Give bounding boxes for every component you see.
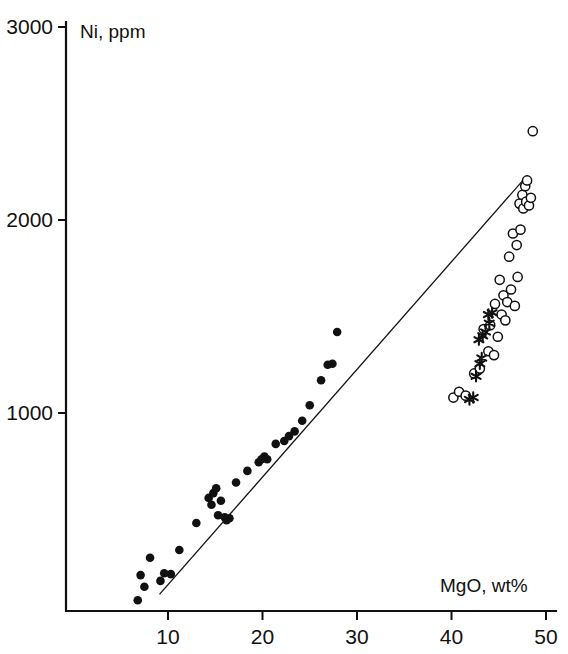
data-point-filled-circle [305,401,314,410]
data-point-open-circle [512,240,521,249]
data-point-filled-circle [133,596,142,605]
data-point-open-circle [513,272,522,281]
axes-group [66,22,556,611]
y-tick-label: 3000 [6,15,53,38]
x-tick-label: 10 [156,625,179,648]
data-point-filled-circle [156,577,165,586]
data-point-filled-circle [298,416,307,425]
axis-frame [66,22,556,611]
data-point-open-circle [505,252,514,261]
data-point-filled-circle [217,497,226,506]
x-tick-label: 40 [440,625,463,648]
y-axis-ticks: 100020003000 [6,15,66,424]
data-point-filled-circle [317,376,326,385]
x-tick-label: 20 [251,625,274,648]
data-point-filled-circle [263,455,272,464]
x-tick-label: 30 [345,625,368,648]
data-point-filled-circle [212,484,221,493]
data-point-open-circle [528,127,537,136]
data-point-open-circle [495,275,504,284]
data-point-open-circle [523,176,532,185]
data-point-filled-circle [333,328,342,337]
data-point-open-circle [489,351,498,360]
data-point-open-circle [506,285,515,294]
series-open-circles [449,127,538,403]
x-tick-label: 50 [534,625,557,648]
y-axis-title: Ni, ppm [80,21,145,42]
data-point-filled-circle [140,582,149,591]
data-point-filled-circle [290,427,299,436]
plot-canvas: 100020003000 1020304050 Ni, ppm MgO, wt% [0,0,568,654]
x-axis-ticks: 1020304050 [156,611,557,648]
data-point-open-circle [501,316,510,325]
data-point-open-circle [516,225,525,234]
data-point-filled-circle [328,359,337,368]
data-point-open-circle [493,332,502,341]
data-point-open-circle [510,301,519,310]
data-point-filled-circle [225,514,234,523]
y-tick-label: 2000 [6,208,53,231]
data-point-filled-circle [207,500,216,509]
data-point-open-circle [526,193,535,202]
y-tick-label: 1000 [6,401,53,424]
data-point-filled-circle [192,519,201,528]
scatter-plot-figure: 100020003000 1020304050 Ni, ppm MgO, wt% [0,0,568,654]
data-point-filled-circle [146,553,155,562]
regression-trend-line [159,176,527,595]
data-point-filled-circle [271,440,280,449]
data-point-filled-circle [136,571,145,580]
data-point-filled-circle [175,546,184,555]
data-point-filled-circle [167,570,176,579]
data-point-filled-circle [232,478,241,487]
x-axis-title: MgO, wt% [440,575,528,596]
data-point-filled-circle [243,467,252,476]
series-filled-circles [133,328,341,605]
